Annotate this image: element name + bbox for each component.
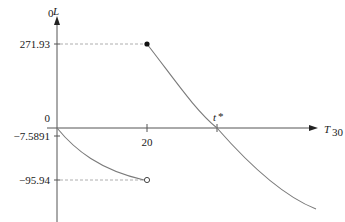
curve-segment-1 (57, 128, 144, 180)
curve-segment-2 (147, 44, 316, 209)
y-label-neg7: −7.5891 (14, 130, 50, 142)
x-axis-arrow-icon (309, 125, 318, 131)
y-axis-label-main: L (52, 5, 59, 17)
x-label-tstar-sup: * (218, 110, 224, 122)
y-axis-arrow-icon (54, 16, 60, 25)
x-axis-label-sub: 30 (332, 126, 344, 138)
y-label-neg95: −95.94 (19, 174, 50, 186)
x-label-20: 20 (142, 136, 154, 148)
chart: 0 L 271.93 0 −7.5891 −95.94 20 t * T 30 (0, 0, 345, 222)
open-endpoint-marker (144, 177, 149, 182)
x-label-tstar: t (213, 111, 217, 123)
filled-endpoint-marker (144, 41, 149, 46)
y-label-271: 271.93 (20, 38, 51, 50)
y-label-0: 0 (45, 112, 51, 124)
x-axis-label-main: T (324, 123, 331, 135)
